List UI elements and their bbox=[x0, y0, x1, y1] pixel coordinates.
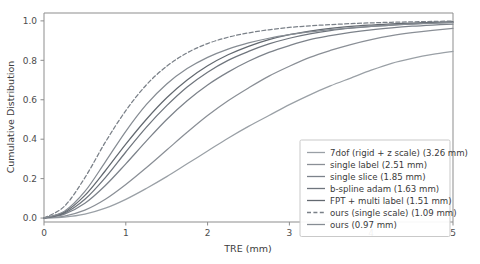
cdf-figure: 012345 0.00.20.40.60.81.0 TRE (mm) Cumul… bbox=[0, 0, 480, 264]
x-tick-label: 0 bbox=[41, 228, 47, 238]
x-tick-label: 5 bbox=[450, 228, 456, 238]
y-tick-label: 1.0 bbox=[23, 16, 38, 26]
legend[interactable]: 7dof (rigid + z scale) (3.26 mm)single l… bbox=[300, 140, 468, 237]
x-tick-label: 2 bbox=[205, 228, 211, 238]
y-axis-title: Cumulative Distribution bbox=[5, 61, 16, 174]
y-tick-label: 0.2 bbox=[23, 174, 37, 184]
y-axis-ticks: 0.00.20.40.60.81.0 bbox=[23, 16, 44, 223]
legend-item-1[interactable] bbox=[302, 159, 448, 171]
y-tick-label: 0.8 bbox=[23, 56, 38, 66]
legend-item-0[interactable] bbox=[302, 147, 448, 159]
legend-item-4[interactable] bbox=[302, 195, 448, 207]
legend-item-3[interactable] bbox=[302, 183, 448, 195]
legend-item-6[interactable] bbox=[302, 219, 448, 231]
y-tick-label: 0.4 bbox=[23, 134, 38, 144]
x-tick-label: 1 bbox=[123, 228, 129, 238]
x-tick-label: 3 bbox=[287, 228, 293, 238]
y-tick-label: 0.6 bbox=[23, 95, 38, 105]
legend-item-5[interactable] bbox=[302, 207, 448, 219]
legend-item-2[interactable] bbox=[302, 171, 448, 183]
plot-canvas: 012345 0.00.20.40.60.81.0 TRE (mm) Cumul… bbox=[0, 0, 480, 264]
x-axis-title: TRE (mm) bbox=[223, 243, 271, 254]
y-tick-label: 0.0 bbox=[23, 213, 38, 223]
